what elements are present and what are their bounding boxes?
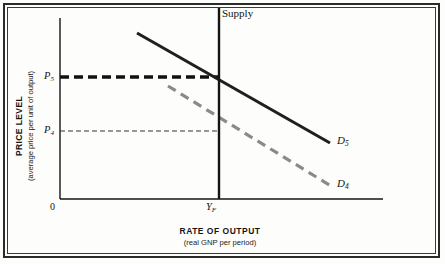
y-axis-subtitle: (average price per unit of output) [26,46,35,206]
y-axis-title-group: PRICE LEVEL (average price per unit of o… [14,46,48,206]
supply-curve-label: Supply [222,8,253,19]
x-axis-title-group: RATE OF OUTPUT (real GNP per period) [70,226,370,247]
plot-canvas [0,0,445,264]
origin-label: 0 [50,202,55,212]
demand-curve-d4-label: D4 [337,178,349,191]
y-axis-title: PRICE LEVEL [14,46,24,206]
y-tick-label-p5: P5 [44,71,54,83]
demand-curve-d5-label: D5 [337,135,349,148]
y-tick-label-p4: P4 [44,125,54,137]
demand-curve-d4 [168,86,331,186]
x-axis-title: RATE OF OUTPUT [70,226,370,236]
x-axis-subtitle: (real GNP per period) [70,238,370,247]
x-tick-label-yf: YF [206,202,216,214]
figure-container: PRICE LEVEL (average price per unit of o… [0,0,445,264]
